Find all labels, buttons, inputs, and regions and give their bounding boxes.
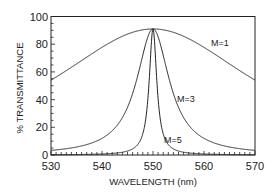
y-tick-100: 100	[30, 11, 48, 23]
y-tick-60: 60	[36, 66, 48, 78]
y-tick-40: 40	[36, 94, 48, 106]
x-axis-title: WAVELENGTH (nm)	[109, 176, 197, 187]
label-m1: M=1	[211, 38, 229, 48]
x-tick-560: 560	[195, 160, 213, 172]
curve-m1	[51, 29, 255, 80]
x-tick-530: 530	[42, 160, 60, 172]
y-tick-20: 20	[36, 121, 48, 133]
label-m3: M=3	[177, 94, 195, 104]
y-axis-title: % TRANSMITTANCE	[14, 43, 25, 134]
y-tick-80: 80	[36, 38, 48, 50]
transmittance-chart: 100 80 60 40 20 0 530 540 550 560 570 WA…	[0, 0, 278, 196]
x-tick-570: 570	[246, 160, 264, 172]
label-m5: M=5	[164, 135, 182, 145]
x-tick-540: 540	[93, 160, 111, 172]
x-tick-550: 550	[144, 160, 162, 172]
